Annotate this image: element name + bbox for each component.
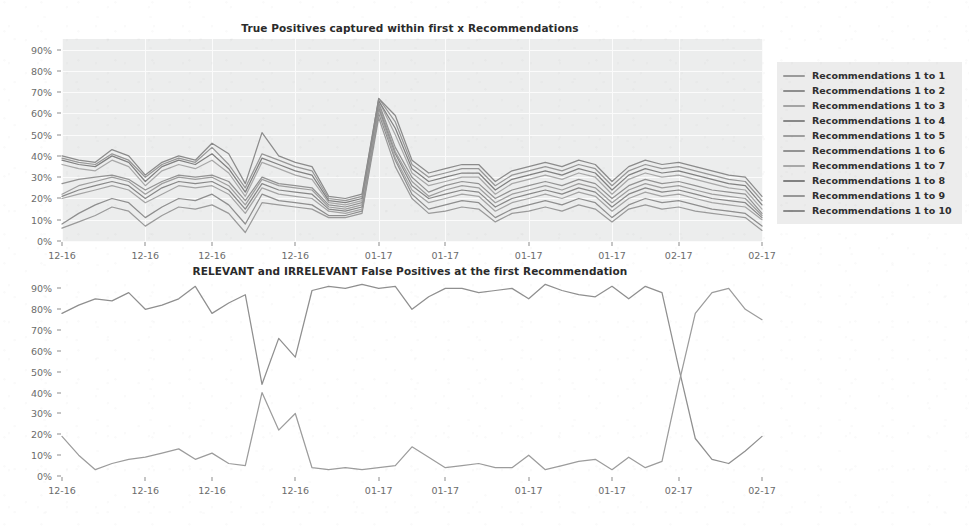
legend-item[interactable]: Recommendations 1 to 5 <box>783 128 954 143</box>
series-line <box>62 118 762 233</box>
legend-item[interactable]: Recommendations 1 to 7 <box>783 158 954 173</box>
legend-item-label: Recommendations 1 to 10 <box>812 205 952 216</box>
legend-item-label: Recommendations 1 to 7 <box>812 160 945 171</box>
figure-page: True Positives captured within first x R… <box>0 0 969 526</box>
x-axis-tick-label: 12-16 <box>48 485 76 496</box>
series-line <box>62 103 762 214</box>
y-axis-tick-mark <box>57 177 61 178</box>
y-axis-tick-mark <box>57 288 61 289</box>
legend-line-swatch <box>783 105 805 107</box>
legend-line-swatch <box>783 120 805 122</box>
x-axis-tick-label: 02-17 <box>665 485 693 496</box>
legend-true-positives[interactable]: Recommendations 1 to 1Recommendations 1 … <box>777 62 962 224</box>
y-axis-tick-mark <box>57 134 61 135</box>
x-axis-tick-mark <box>445 242 446 246</box>
legend-item[interactable]: Recommendations 1 to 10 <box>783 203 954 218</box>
legend-line-swatch <box>783 210 805 212</box>
legend-item-label: Recommendations 1 to 1 <box>812 70 945 81</box>
y-axis-tick-label: 0% <box>6 471 52 482</box>
x-axis-tick-mark <box>295 477 296 481</box>
y-axis-tick-label: 60% <box>6 108 52 119</box>
y-axis-tick-mark <box>57 476 61 477</box>
legend-item-label: Recommendations 1 to 3 <box>812 100 945 111</box>
x-axis-tick-label: 02-17 <box>748 485 776 496</box>
x-axis-tick-mark <box>445 477 446 481</box>
x-axis-tick-mark <box>762 477 763 481</box>
legend-item[interactable]: Recommendations 1 to 8 <box>783 173 954 188</box>
y-axis-tick-label: 10% <box>6 450 52 461</box>
y-axis-tick-mark <box>57 219 61 220</box>
y-axis-tick-mark <box>57 455 61 456</box>
y-axis-tick-mark <box>57 350 61 351</box>
x-axis-tick-mark <box>378 242 379 246</box>
x-axis-tick-label: 12-16 <box>198 485 226 496</box>
y-axis-tick-label: 10% <box>6 214 52 225</box>
legend-item[interactable]: Recommendations 1 to 1 <box>783 68 954 83</box>
x-axis-tick-mark <box>212 477 213 481</box>
x-axis-tick-mark <box>145 242 146 246</box>
x-axis-tick-mark <box>678 477 679 481</box>
series-line <box>62 113 762 226</box>
legend-line-swatch <box>783 195 805 197</box>
y-axis-tick-label: 20% <box>6 429 52 440</box>
x-axis-tick-mark <box>612 477 613 481</box>
x-axis-tick-mark <box>762 242 763 246</box>
y-axis-tick-label: 40% <box>6 150 52 161</box>
y-axis-tick-label: 70% <box>6 87 52 98</box>
y-axis-tick-mark <box>57 371 61 372</box>
legend-item-label: Recommendations 1 to 2 <box>812 85 945 96</box>
y-axis-tick-mark <box>57 92 61 93</box>
x-axis-tick-mark <box>528 242 529 246</box>
x-axis-tick-label: 01-17 <box>432 485 460 496</box>
legend-item-label: Recommendations 1 to 6 <box>812 145 945 156</box>
y-axis-tick-label: 70% <box>6 325 52 336</box>
legend-item[interactable]: Recommendations 1 to 4 <box>783 113 954 128</box>
x-axis-tick-label: 01-17 <box>515 485 543 496</box>
y-axis-tick-mark <box>57 413 61 414</box>
y-axis-tick-label: 40% <box>6 387 52 398</box>
x-axis-tick-label: 12-16 <box>282 485 310 496</box>
y-axis-tick-label: 50% <box>6 129 52 140</box>
legend-item[interactable]: Recommendations 1 to 2 <box>783 83 954 98</box>
x-axis-tick-mark <box>295 242 296 246</box>
series-line <box>62 288 762 469</box>
y-axis-tick-mark <box>57 198 61 199</box>
legend-line-swatch <box>783 135 805 137</box>
legend-line-swatch <box>783 180 805 182</box>
x-axis-tick-label: 12-16 <box>132 485 160 496</box>
x-axis-tick-mark <box>62 242 63 246</box>
legend-item-label: Recommendations 1 to 9 <box>812 190 945 201</box>
y-axis-tick-label: 60% <box>6 345 52 356</box>
y-axis-tick-mark <box>57 113 61 114</box>
y-axis-tick-label: 80% <box>6 304 52 315</box>
x-axis-tick-mark <box>528 477 529 481</box>
legend-item-label: Recommendations 1 to 4 <box>812 115 945 126</box>
legend-item[interactable]: Recommendations 1 to 6 <box>783 143 954 158</box>
legend-line-swatch <box>783 90 805 92</box>
legend-item[interactable]: Recommendations 1 to 9 <box>783 188 954 203</box>
legend-line-swatch <box>783 75 805 77</box>
chart-true-positives: True Positives captured within first x R… <box>0 0 969 263</box>
y-axis-tick-mark <box>57 70 61 71</box>
y-axis-tick-label: 80% <box>6 65 52 76</box>
y-axis-tick-label: 90% <box>6 44 52 55</box>
y-axis-tick-label: 30% <box>6 408 52 419</box>
y-axis-tick-mark <box>57 49 61 50</box>
legend-item[interactable]: Recommendations 1 to 3 <box>783 98 954 113</box>
x-axis-tick-label: 01-17 <box>598 485 626 496</box>
y-axis-tick-mark <box>57 330 61 331</box>
legend-item-label: Recommendations 1 to 8 <box>812 175 945 186</box>
y-axis-tick-label: 20% <box>6 193 52 204</box>
series-line <box>62 99 762 199</box>
legend-line-swatch <box>783 165 805 167</box>
x-axis-tick-mark <box>145 477 146 481</box>
y-axis-tick-label: 90% <box>6 283 52 294</box>
y-axis-tick-mark <box>57 241 61 242</box>
y-axis-tick-label: 30% <box>6 172 52 183</box>
y-axis-tick-mark <box>57 309 61 310</box>
x-axis-tick-mark <box>212 242 213 246</box>
x-axis-tick-mark <box>678 242 679 246</box>
y-axis-tick-label: 0% <box>6 236 52 247</box>
legend-item-label: Recommendations 1 to 5 <box>812 130 945 141</box>
y-axis-tick-mark <box>57 155 61 156</box>
